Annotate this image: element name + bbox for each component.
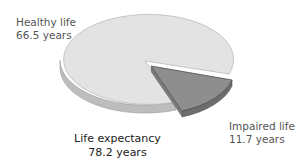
healthy-life-value: 66.5 years (16, 29, 76, 42)
healthy-life-label: Healthy life 66.5 years (16, 16, 76, 42)
life-expectancy-name: Life expectancy (74, 132, 161, 146)
healthy-life-name: Healthy life (16, 16, 76, 29)
life-expectancy-value: 78.2 years (74, 146, 161, 160)
life-expectancy-label: Life expectancy 78.2 years (0, 132, 295, 160)
